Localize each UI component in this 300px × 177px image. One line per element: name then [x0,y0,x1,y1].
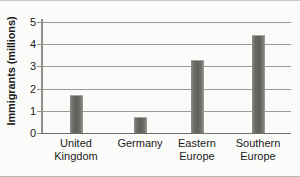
y-axis-tick-label: 1 [24,105,36,117]
x-axis-label-line2: Europe [219,150,297,163]
bar [191,60,204,133]
y-axis-tick-label: 3 [24,60,36,72]
bar [134,117,147,133]
x-axis-label-line1: United [60,137,92,149]
bar-chart-figure: Immigrants (millions) 012345 UnitedKingd… [0,0,300,177]
x-axis-baseline [42,133,291,134]
plot-area [42,22,291,133]
y-axis-tick-mark [37,44,42,45]
y-axis-tick-mark [37,89,42,90]
x-axis-label-line1: Germany [117,137,162,149]
y-axis-tick-mark [37,111,42,112]
x-axis-labels: UnitedKingdomGermanyEasternEuropeSouther… [42,137,291,177]
x-axis-label-line1: Southern [236,137,281,149]
y-axis-title-text: Immigrants (millions) [5,16,17,125]
y-axis-tick-label: 0 [24,127,36,139]
y-axis-tick-label: 5 [24,16,36,28]
x-axis-label-line1: Eastern [178,137,216,149]
y-axis-tick-label: 4 [24,38,36,50]
x-axis-label-line2: Kingdom [37,150,115,163]
x-axis-category-label: SouthernEurope [219,137,297,163]
bar [252,35,265,133]
y-axis-tick-labels: 012345 [22,22,36,133]
y-axis-tick-mark [37,133,42,134]
y-axis-tick-label: 2 [24,83,36,95]
bar [70,95,83,133]
gridline [42,22,291,23]
y-axis-tick-mark [37,22,42,23]
y-axis-tick-mark [37,66,42,67]
y-axis-title: Immigrants (millions) [0,1,22,141]
